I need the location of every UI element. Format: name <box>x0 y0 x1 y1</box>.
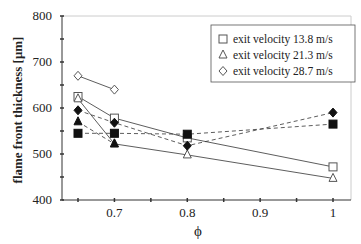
legend-item-label: exit velocity 13.8 m/s <box>233 33 333 46</box>
open-triangle-marker <box>329 173 337 181</box>
open-diamond-marker <box>74 71 82 80</box>
x-axis-title: ϕ <box>194 223 202 239</box>
open-square-marker <box>219 35 227 43</box>
chart: 4005006007008000.70.80.91 exit velocity … <box>0 0 361 244</box>
legend: exit velocity 13.8 m/sexit velocity 21.3… <box>211 25 355 82</box>
open-square-marker <box>329 163 337 171</box>
y-tick-label: 800 <box>33 8 53 23</box>
open-diamond-marker <box>110 85 118 94</box>
legend-item-label: exit velocity 21.3 m/s <box>233 49 333 62</box>
series-line <box>78 122 114 144</box>
x-tick-label: 0.8 <box>179 205 195 220</box>
open-triangle-marker <box>183 150 191 158</box>
y-tick-label: 500 <box>33 146 53 161</box>
legend-item-label: exit velocity 28.7 m/s <box>233 65 333 78</box>
data-series <box>74 71 337 181</box>
x-tick-label: 0.9 <box>252 205 268 220</box>
y-axis-title: flame front thickness [μm] <box>10 37 25 184</box>
filled-square-marker <box>183 130 191 138</box>
y-tick-label: 400 <box>33 192 53 207</box>
x-tick-label: 0.7 <box>106 205 123 220</box>
series-line <box>78 99 333 179</box>
filled-triangle-marker <box>74 117 82 125</box>
filled-square-marker <box>110 129 118 137</box>
filled-diamond-marker <box>329 108 337 117</box>
filled-diamond-marker <box>183 141 191 150</box>
y-tick-label: 700 <box>33 54 53 69</box>
filled-square-marker <box>329 120 337 128</box>
filled-diamond-marker <box>74 106 82 115</box>
y-tick-label: 600 <box>33 100 53 115</box>
filled-square-marker <box>74 129 82 137</box>
series-line <box>78 76 114 90</box>
x-tick-label: 1 <box>330 205 337 220</box>
